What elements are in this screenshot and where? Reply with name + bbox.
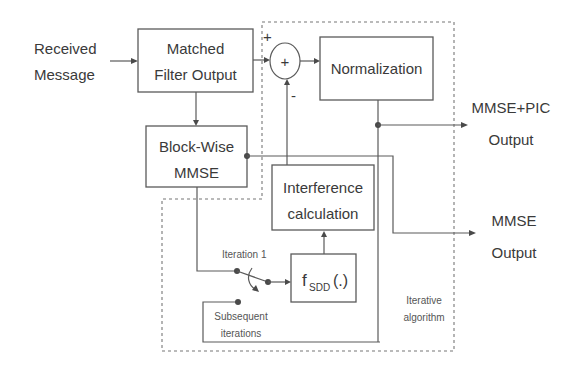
normalization-label: Normalization bbox=[331, 60, 423, 77]
matched-filter-block: Matched Filter Output bbox=[138, 29, 253, 92]
fsdd-args: (.) bbox=[333, 272, 348, 289]
subsequent-line2: iterations bbox=[221, 328, 262, 339]
interference-calculation-block: Interference calculation bbox=[272, 165, 374, 230]
iterative-label-line2: algorithm bbox=[403, 312, 444, 323]
iteration1-label: Iteration 1 bbox=[222, 249, 267, 260]
arrowhead-icon bbox=[193, 120, 199, 126]
fsdd-block: f SDD (.) bbox=[291, 254, 356, 302]
block-diagram: Received Message Matched Filter Output +… bbox=[0, 0, 583, 374]
mmse-output-line2: Output bbox=[491, 244, 537, 261]
arrowhead-icon bbox=[321, 231, 327, 237]
mmse-pic-output-line1: MMSE+PIC bbox=[472, 99, 551, 116]
interference-line2: calculation bbox=[288, 205, 359, 222]
input-label-line2: Message bbox=[34, 66, 95, 83]
normalization-block: Normalization bbox=[320, 37, 433, 100]
arrowhead-icon bbox=[131, 58, 138, 64]
block-wise-line2: MMSE bbox=[174, 164, 219, 181]
switch-icon bbox=[237, 268, 268, 292]
summing-junction: + bbox=[270, 43, 300, 79]
switch-contact-subsequent bbox=[235, 299, 241, 305]
fsdd-main: f bbox=[302, 271, 307, 290]
plus-input-sign: + bbox=[263, 28, 272, 45]
arrowhead-icon bbox=[461, 122, 468, 128]
block-wise-mmse-block: Block-Wise MMSE bbox=[146, 126, 247, 187]
matched-filter-line2: Filter Output bbox=[154, 66, 237, 83]
minus-input-sign: - bbox=[291, 87, 296, 104]
interference-line1: Interference bbox=[283, 179, 363, 196]
input-label-line1: Received bbox=[34, 40, 97, 57]
arrowhead-icon bbox=[285, 279, 291, 285]
mmse-pic-output-line2: Output bbox=[488, 131, 534, 148]
arrowhead-icon bbox=[264, 57, 270, 63]
arrowhead-icon bbox=[314, 58, 320, 64]
sum-symbol: + bbox=[281, 53, 290, 70]
mmse-output-line1: MMSE bbox=[492, 212, 537, 229]
arrowhead-icon bbox=[284, 79, 290, 85]
block-wise-line1: Block-Wise bbox=[159, 138, 234, 155]
subsequent-line1: Subsequent bbox=[214, 311, 268, 322]
iterative-label-line1: Iterative bbox=[406, 295, 442, 306]
arrowhead-icon bbox=[469, 230, 476, 236]
matched-filter-line1: Matched bbox=[167, 40, 225, 57]
fsdd-subscript: SDD bbox=[309, 282, 330, 293]
